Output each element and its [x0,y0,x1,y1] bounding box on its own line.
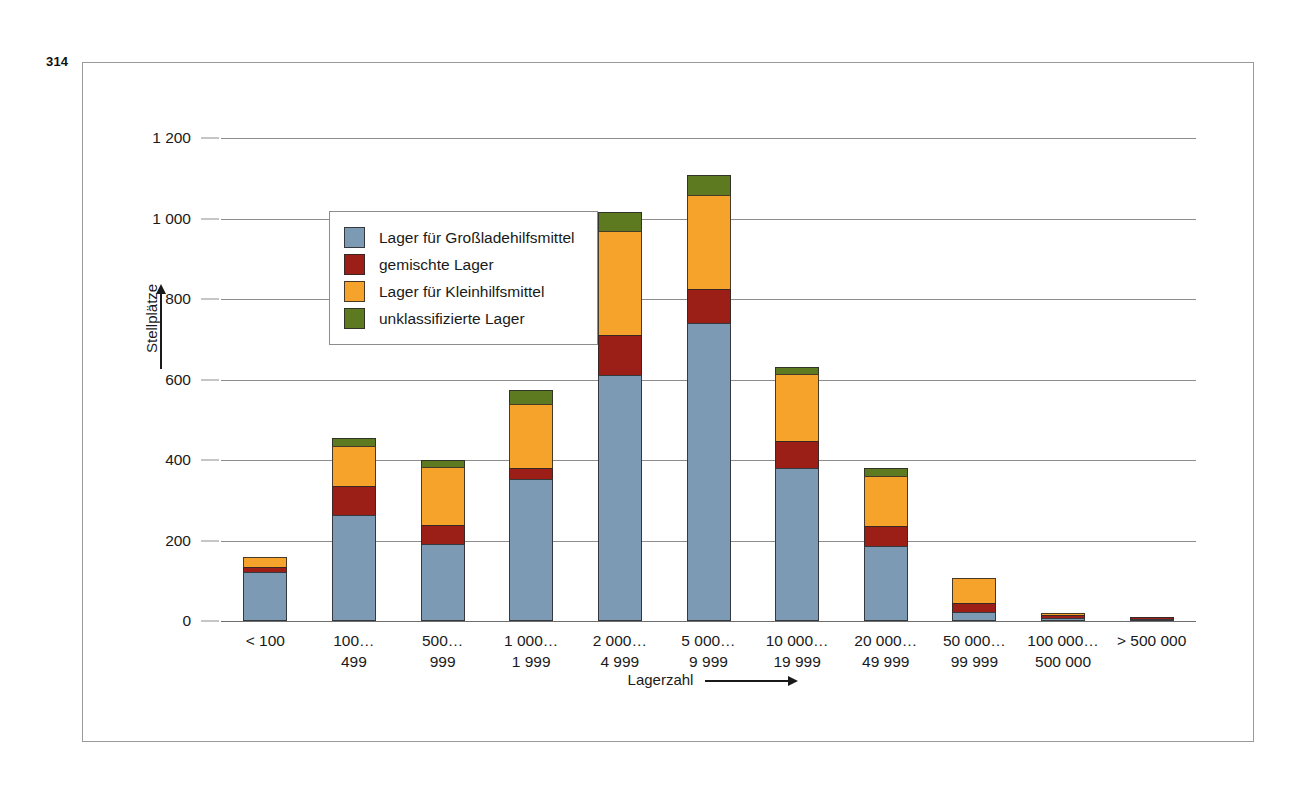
bar-stack[interactable] [775,367,819,621]
legend-swatch-icon [344,308,365,329]
bar-segment[interactable] [509,404,553,468]
bar-segment[interactable] [509,390,553,404]
x-tick-label-line: 100 000… [1019,630,1108,651]
legend-item-label: Lager für Kleinhilfsmittel [379,283,544,301]
y-tick-label-600: 600 [101,371,191,389]
x-tick-label-line: 49 999 [841,651,930,672]
y-tick-label-200: 200 [101,532,191,550]
x-tick-label-line: 5 000… [664,630,753,651]
bar-segment[interactable] [421,460,465,467]
bar-segment[interactable] [598,212,642,231]
bar-segment[interactable] [598,375,642,621]
bar-segment[interactable] [509,479,553,621]
legend-item[interactable]: unklassifizierte Lager [344,305,575,332]
page-number: 314 [46,54,68,69]
legend-item-label: unklassifizierte Lager [379,310,525,328]
y-tick-mark-0 [201,621,219,622]
legend-item[interactable]: gemischte Lager [344,251,575,278]
bar-segment[interactable] [687,195,731,289]
bar-segment[interactable] [864,526,908,546]
bar-stack[interactable] [598,212,642,621]
x-tick-label: 50 000…99 999 [930,630,1019,672]
gridline-0 [221,621,1196,622]
legend-swatch-icon [344,281,365,302]
legend-item-label: Lager für Großladehilfsmittel [379,229,575,247]
x-tick-label-line: 4 999 [576,651,665,672]
bar-segment[interactable] [332,438,376,447]
bar-segment[interactable] [952,612,996,621]
y-tick-mark-800 [201,299,219,300]
y-tick-mark-600 [201,379,219,380]
legend-swatch-icon [344,254,365,275]
bar-segment[interactable] [775,468,819,621]
x-tick-label-line: 19 999 [753,651,842,672]
x-tick-label: 100 000…500 000 [1019,630,1108,672]
x-tick-label-line: 50 000… [930,630,1019,651]
legend-item[interactable]: Lager für Großladehilfsmittel [344,224,575,251]
x-tick-label: 1 000…1 999 [487,630,576,672]
x-axis-title: Lagerzahl [221,671,1196,688]
bar-segment[interactable] [1130,619,1174,621]
y-tick-label-400: 400 [101,451,191,469]
x-tick-label: 2 000…4 999 [576,630,665,672]
bar-segment[interactable] [598,335,642,375]
chart-page: 314 Stellplätze 02004006008001 0001 200<… [0,0,1305,796]
x-tick-label-line: 499 [310,651,399,672]
bar-stack[interactable] [332,438,376,622]
figure-frame: Stellplätze 02004006008001 0001 200< 100… [82,62,1254,742]
x-axis-arrow-icon [705,680,789,682]
x-tick-label-line: 9 999 [664,651,753,672]
bar-segment[interactable] [332,486,376,515]
y-tick-mark-1200 [201,138,219,139]
legend-item[interactable]: Lager für Kleinhilfsmittel [344,278,575,305]
x-tick-label-line: 500… [398,630,487,651]
bar-segment[interactable] [775,441,819,468]
x-tick-label-line: 1 000… [487,630,576,651]
x-tick-label: < 100 [221,630,310,651]
y-tick-mark-200 [201,540,219,541]
bar-segment[interactable] [509,468,553,479]
x-tick-label: > 500 000 [1107,630,1196,651]
bar-segment[interactable] [421,544,465,621]
bar-segment[interactable] [421,467,465,525]
x-tick-label-line: 99 999 [930,651,1019,672]
bar-stack[interactable] [243,557,287,621]
x-tick-label-line: 2 000… [576,630,665,651]
bar-segment[interactable] [864,468,908,476]
x-tick-label-line: 1 999 [487,651,576,672]
x-tick-label: 500…999 [398,630,487,672]
bar-segment[interactable] [243,557,287,567]
x-tick-label-line: 999 [398,651,487,672]
bar-segment[interactable] [864,476,908,526]
bar-stack[interactable] [952,578,996,621]
bar-stack[interactable] [509,390,553,621]
bar-stack[interactable] [421,460,465,621]
chart-legend: Lager für Großladehilfsmittelgemischte L… [329,211,598,345]
x-tick-label-line: 500 000 [1019,651,1108,672]
bar-segment[interactable] [332,515,376,621]
bar-segment[interactable] [952,603,996,612]
bar-segment[interactable] [864,546,908,621]
bar-segment[interactable] [243,572,287,621]
bar-segment[interactable] [687,175,731,195]
bar-segment[interactable] [687,289,731,323]
bar-segment[interactable] [598,231,642,335]
y-tick-mark-400 [201,460,219,461]
legend-item-label: gemischte Lager [379,256,494,274]
bar-segment[interactable] [421,525,465,544]
bar-stack[interactable] [864,468,908,621]
bar-segment[interactable] [332,446,376,486]
bar-segment[interactable] [687,323,731,621]
bar-segment[interactable] [1041,618,1085,621]
x-tick-label: 20 000…49 999 [841,630,930,672]
x-tick-label-line: 100… [310,630,399,651]
bar-segment[interactable] [775,367,819,374]
x-tick-label: 10 000…19 999 [753,630,842,672]
y-tick-label-800: 800 [101,290,191,308]
bar-stack[interactable] [1130,617,1174,621]
bar-stack[interactable] [687,175,731,621]
bar-stack[interactable] [1041,613,1085,621]
y-tick-label-1200: 1 200 [101,129,191,147]
bar-segment[interactable] [952,578,996,603]
bar-segment[interactable] [775,374,819,441]
